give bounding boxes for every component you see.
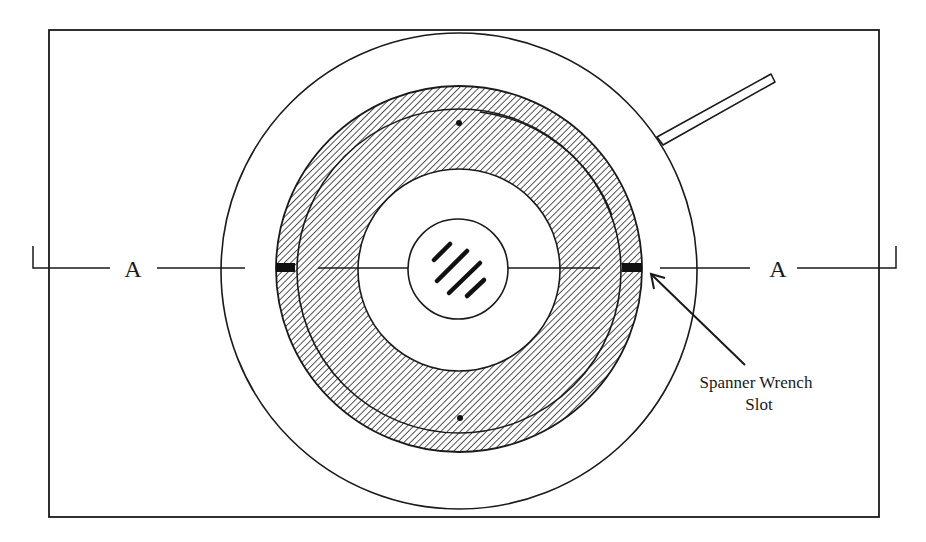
section-label-left: A	[124, 256, 142, 282]
callout-label-line2: Slot	[745, 395, 773, 414]
callout-label-line1: Spanner Wrench	[700, 373, 813, 392]
spanner-slot-left	[276, 263, 295, 272]
lens-window	[408, 219, 508, 319]
alignment-dot-bottom	[457, 415, 463, 421]
diagram-canvas: A A Spanner Wrench Slot	[0, 0, 926, 542]
alignment-dot-top	[456, 120, 462, 126]
handle-arm	[657, 74, 775, 145]
spanner-slot-right	[622, 263, 642, 272]
section-label-right: A	[769, 256, 787, 282]
